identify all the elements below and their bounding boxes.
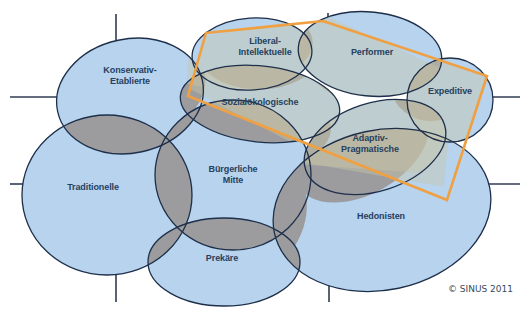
- milieu-label-line2: Etablierte: [103, 76, 156, 87]
- milieu-label-traditionelle: Traditionelle: [67, 182, 119, 193]
- milieu-label-liberal-intellektuelle: Liberal-Intellektuelle: [238, 36, 291, 58]
- milieu-label-line2: Pragmatische: [341, 144, 399, 155]
- milieu-label-adaptiv-pragmatische: Adaptiv-Pragmatische: [341, 133, 399, 155]
- milieu-label-line1: Hedonisten: [357, 211, 405, 222]
- sinus-milieu-diagram: Konservativ-EtablierteLiberal-Intellektu…: [0, 0, 530, 313]
- milieu-label-line1: Prekäre: [206, 253, 238, 264]
- copyright-notice: © SINUS 2011: [448, 284, 513, 294]
- milieu-label-line1: Traditionelle: [67, 182, 119, 193]
- milieu-label-line2: Mitte: [209, 175, 258, 186]
- milieu-label-sozialoekologische: Sozialökologische: [222, 97, 299, 108]
- milieu-label-expeditive: Expeditive: [428, 86, 472, 97]
- milieu-label-line1: Adaptiv-: [341, 133, 399, 144]
- milieu-label-prekaere: Prekäre: [206, 253, 238, 264]
- milieu-label-line1: Konservativ-: [103, 65, 156, 76]
- milieu-label-line1: Bürgerliche: [209, 164, 258, 175]
- milieu-label-line2: Intellektuelle: [238, 47, 291, 58]
- milieu-label-line1: Expeditive: [428, 86, 472, 97]
- milieu-label-line1: Liberal-: [238, 36, 291, 47]
- milieu-label-line1: Performer: [351, 47, 393, 58]
- milieu-label-buergerliche-mitte: BürgerlicheMitte: [209, 164, 258, 186]
- milieu-label-konservativ-etablierte: Konservativ-Etablierte: [103, 65, 156, 87]
- milieu-label-hedonisten: Hedonisten: [357, 211, 405, 222]
- milieu-label-line1: Sozialökologische: [222, 97, 299, 108]
- milieu-label-performer: Performer: [351, 47, 393, 58]
